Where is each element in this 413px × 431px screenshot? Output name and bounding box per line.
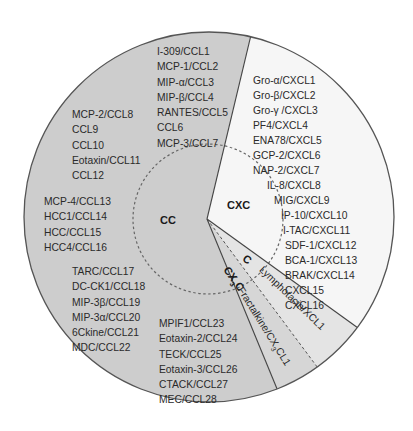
list-item: I-309/CCL1	[157, 44, 228, 59]
list-item: Gro-γ /CXCL3	[253, 103, 318, 118]
list-item: I-TAC/CXCL11	[283, 223, 350, 238]
list-item: SDF-1/CXCL12	[285, 238, 357, 253]
list-item: TECK/CCL25	[159, 347, 237, 362]
list-item: Gro-β/CXCL2	[253, 88, 316, 103]
list-item: CCL6	[157, 120, 228, 135]
cc-list-lower-left: TARC/CCL17 DC-CK1/CCL18 MIP-3β/CCL19 MIP…	[72, 264, 145, 356]
list-item: CCL12	[72, 168, 141, 183]
list-item: MCP-1/CCL2	[157, 59, 228, 74]
list-item: HCC4/CCL16	[44, 240, 111, 255]
list-item: GCP-2/CXCL6	[253, 148, 321, 163]
list-item: Eotaxin/CCL11	[72, 153, 141, 168]
list-item: MCP-3/CCL7	[157, 136, 228, 151]
list-item: Gro-α/CXCL1	[253, 73, 316, 88]
list-item: ENA78/CXCL5	[253, 133, 322, 148]
list-item: MIP-3α/CCL20	[72, 310, 145, 325]
list-item: BCA-1/CXCL13	[285, 253, 357, 268]
list-item: CCL9	[72, 122, 141, 137]
list-item: MCP-2/CCL8	[72, 107, 141, 122]
list-item: MIP-β/CCL4	[157, 90, 228, 105]
list-item: PF4/CXCL4	[253, 118, 308, 133]
list-item: MIG/CXCL9	[274, 193, 330, 208]
list-item: NAP-2/CXCL7	[253, 163, 319, 178]
chemokine-pie-diagram: I-309/CCL1 MCP-1/CCL2 MIP-α/CCL3 MIP-β/C…	[0, 0, 413, 431]
cc-list-bottom: MPIF1/CCL23 Eotaxin-2/CCL24 TECK/CCL25 E…	[159, 316, 237, 408]
list-item: MIP-3β/CCL19	[72, 295, 145, 310]
list-item: DC-CK1/CCL18	[72, 279, 145, 294]
list-item: MEC/CCL28	[159, 392, 237, 407]
list-item: MDC/CCL22	[72, 340, 145, 355]
list-item: HCC/CCL15	[44, 225, 111, 240]
list-item: TARC/CCL17	[72, 264, 145, 279]
list-item: IP-10/CXCL10	[281, 208, 347, 223]
group-label-cc: CC	[160, 214, 176, 226]
cc-list-left: MCP-4/CCL13 HCC1/CCL14 HCC/CCL15 HCC4/CC…	[44, 194, 111, 255]
list-item: CTACK/CCL27	[159, 377, 237, 392]
list-item: IL-8/CXCL8	[267, 178, 321, 193]
list-item: MCP-4/CCL13	[44, 194, 111, 209]
list-item: HCC1/CCL14	[44, 209, 111, 224]
cc-list-upper-left: MCP-2/CCL8 CCL9 CCL10 Eotaxin/CCL11 CCL1…	[72, 107, 141, 183]
cc-list-top: I-309/CCL1 MCP-1/CCL2 MIP-α/CCL3 MIP-β/C…	[157, 44, 228, 151]
list-item: MIP-α/CCL3	[157, 75, 228, 90]
list-item: BRAK/CXCL14	[285, 268, 355, 283]
list-item: 6Ckine/CCL21	[72, 325, 145, 340]
list-item: Eotaxin-3/CCL26	[159, 362, 237, 377]
list-item: Eotaxin-2/CCL24	[159, 331, 237, 346]
list-item: CCL10	[72, 138, 141, 153]
list-item: RANTES/CCL5	[157, 105, 228, 120]
list-item: MPIF1/CCL23	[159, 316, 237, 331]
group-label-cxc: CXC	[227, 199, 250, 211]
